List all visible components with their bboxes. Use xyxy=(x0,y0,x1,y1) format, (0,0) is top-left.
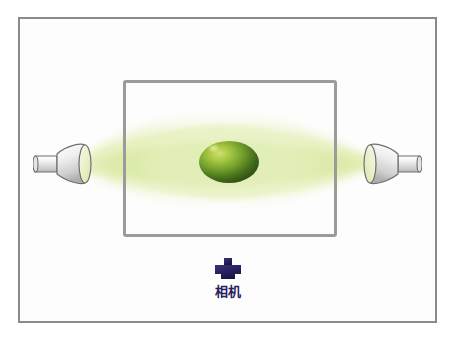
left-lamp-icon xyxy=(33,136,95,190)
right-lamp-icon xyxy=(360,136,422,190)
green-specimen xyxy=(198,138,260,186)
camera-label: 相机 xyxy=(183,284,273,299)
camera-marker: 相机 xyxy=(183,258,273,299)
camera-icon xyxy=(213,258,243,282)
diagram-canvas: 相机 xyxy=(0,0,455,343)
